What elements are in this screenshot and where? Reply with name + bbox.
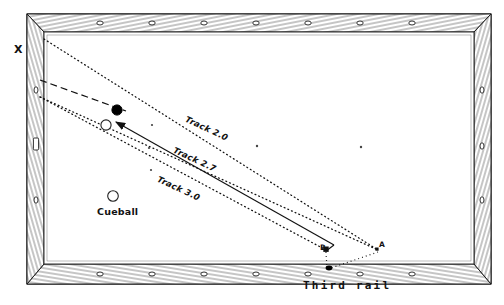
table-frame — [27, 14, 491, 284]
label-cueball: Cueball — [97, 206, 138, 217]
label-point-b: B — [320, 243, 326, 252]
billiard-diagram-canvas: X Cueball Third rail A B Track 2.0 Track… — [0, 0, 504, 305]
label-x: X — [14, 43, 23, 56]
table-illustration — [0, 0, 504, 305]
label-point-a: A — [379, 240, 385, 249]
cueball — [108, 191, 119, 202]
label-third-rail: Third rail — [303, 279, 391, 292]
target-ball — [101, 120, 111, 130]
object-ball — [112, 105, 122, 115]
